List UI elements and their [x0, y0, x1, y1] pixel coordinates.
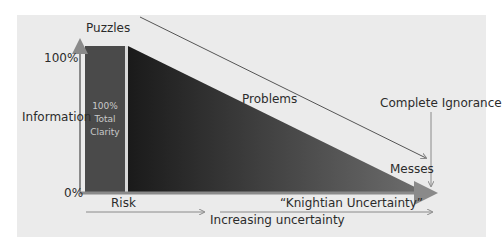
clarity-text: 100% Total Clarity [86, 100, 124, 139]
label-risk: Risk [111, 197, 136, 209]
label-increasing-uncertainty: Increasing uncertainty [210, 214, 345, 226]
clarity-line2: Total [86, 113, 124, 126]
clarity-line3: Clarity [86, 126, 124, 139]
label-knightian: “Knightian Uncertainty” [280, 197, 423, 209]
uncertainty-triangle [128, 46, 425, 192]
label-puzzles: Puzzles [86, 22, 130, 34]
y-axis-top-label: 100% [44, 52, 78, 64]
label-complete-ignorance: Complete Ignorance [380, 97, 502, 109]
y-axis-title: Information [22, 111, 91, 123]
label-problems: Problems [242, 93, 297, 105]
clarity-line1: 100% [86, 100, 124, 113]
y-axis-bottom-label: 0% [64, 187, 83, 199]
label-messes: Messes [390, 163, 434, 175]
